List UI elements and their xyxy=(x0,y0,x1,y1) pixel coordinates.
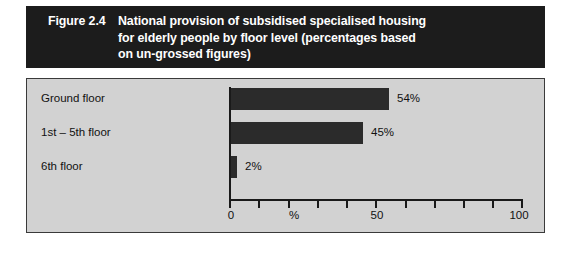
figure-title-text: Figure 2.4National provision of subsidis… xyxy=(48,13,537,63)
bar-1st-5th-floor xyxy=(231,122,363,144)
x-axis-unit-label: % xyxy=(289,209,299,221)
category-label-ground-floor: Ground floor xyxy=(41,92,105,104)
figure-title-banner: Figure 2.4National provision of subsidis… xyxy=(26,6,545,68)
x-tick-label-50: 50 xyxy=(371,209,384,221)
x-tick-40 xyxy=(346,201,348,208)
figure-title-line-1: Figure 2.4National provision of subsidis… xyxy=(48,13,537,30)
bar-ground-floor xyxy=(231,88,389,110)
figure-title-line-2: for elderly people by floor level (perce… xyxy=(48,30,537,47)
x-tick-100 xyxy=(521,201,523,208)
x-tick-label-100: 100 xyxy=(509,209,528,221)
figure-title-line-3: on un-grossed figures) xyxy=(48,46,537,63)
x-tick-30 xyxy=(317,201,319,208)
bar-value-6th-floor: 2% xyxy=(245,160,262,172)
bar-value-ground-floor: 54% xyxy=(397,92,420,104)
chart-panel: Ground floor 1st – 5th floor 6th floor 5… xyxy=(26,78,545,233)
figure-number-label: Figure 2.4 xyxy=(48,13,118,30)
x-tick-20 xyxy=(288,201,290,208)
category-label-1st-5th-floor: 1st – 5th floor xyxy=(41,126,111,138)
bar-6th-floor xyxy=(231,156,237,178)
x-tick-70 xyxy=(434,201,436,208)
y-axis-line xyxy=(229,87,231,200)
figure-title-line-1-text: National provision of subsidised special… xyxy=(118,14,426,28)
x-tick-50 xyxy=(375,201,377,208)
x-tick-90 xyxy=(492,201,494,208)
x-tick-60 xyxy=(405,201,407,208)
x-tick-10 xyxy=(258,201,260,208)
bar-value-1st-5th-floor: 45% xyxy=(371,126,394,138)
category-label-6th-floor: 6th floor xyxy=(41,160,83,172)
x-tick-80 xyxy=(463,201,465,208)
x-tick-0 xyxy=(229,201,231,208)
x-tick-label-0: 0 xyxy=(228,209,234,221)
